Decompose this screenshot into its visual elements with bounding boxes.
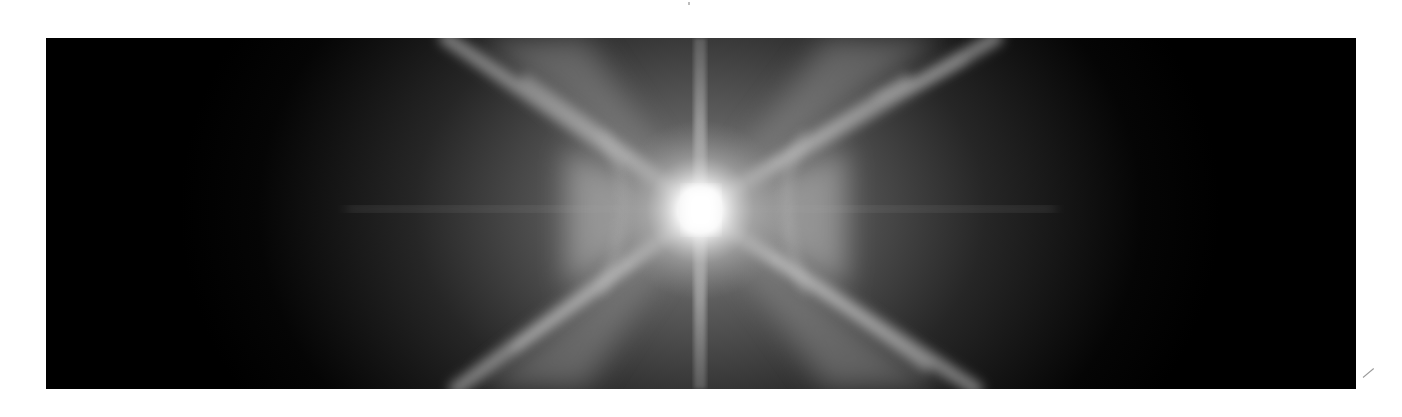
scan-mark: [1363, 368, 1374, 378]
nebula-rendering: [46, 38, 1356, 389]
nebula-image: [46, 38, 1356, 389]
scan-speck: [688, 2, 690, 5]
